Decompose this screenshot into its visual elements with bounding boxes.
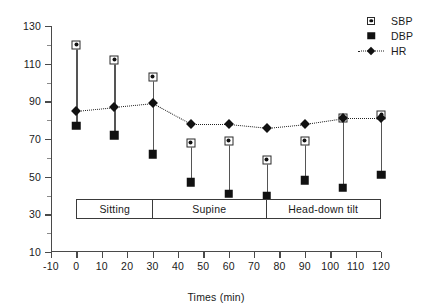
- x-tick-label: 110: [347, 260, 364, 272]
- x-tick-label: 40: [172, 260, 184, 272]
- square-with-dot-icon: [358, 15, 384, 27]
- x-tick: [330, 252, 331, 258]
- data-point-hr: [148, 98, 158, 108]
- x-tick-label: 30: [146, 260, 158, 272]
- y-tick-minor: [47, 83, 51, 84]
- data-point-hr: [110, 102, 120, 112]
- x-tick: [381, 252, 382, 258]
- x-tick: [229, 252, 230, 258]
- y-tick: [45, 177, 51, 178]
- data-point-dbp: [186, 178, 195, 187]
- bp-range-connector: [229, 141, 230, 194]
- y-tick-label: 10: [29, 246, 41, 258]
- data-point-dbp: [339, 184, 348, 193]
- y-tick-label: 30: [29, 208, 41, 220]
- data-point-hr: [262, 123, 272, 133]
- hr-line-segment: [152, 103, 191, 125]
- x-tick: [356, 252, 357, 258]
- data-point-dbp: [224, 189, 233, 198]
- data-point-sbp: [262, 155, 271, 164]
- bp-range-connector: [114, 60, 115, 135]
- legend-item-hr: HR: [358, 44, 413, 57]
- data-point-sbp: [148, 72, 157, 81]
- chart-legend: SBP DBP HR: [358, 14, 413, 59]
- y-tick: [45, 101, 51, 102]
- x-tick: [279, 252, 280, 258]
- data-point-dbp: [301, 176, 310, 185]
- data-point-sbp: [300, 136, 309, 145]
- bp-range-connector: [305, 141, 306, 181]
- y-tick-minor: [47, 158, 51, 159]
- x-tick: [76, 252, 77, 258]
- y-tick-minor: [47, 233, 51, 234]
- y-tick-label: 70: [29, 133, 41, 145]
- phase-label-supine: Supine: [153, 200, 266, 218]
- x-tick-label: 0: [73, 260, 79, 272]
- data-point-sbp: [110, 55, 119, 64]
- y-tick-label: 50: [29, 171, 41, 183]
- x-tick: [178, 252, 179, 258]
- legend-label-hr: HR: [391, 45, 407, 57]
- data-point-dbp: [377, 171, 386, 180]
- x-tick: [51, 252, 52, 258]
- x-tick-label: 100: [321, 260, 339, 272]
- phase-annotation-bar: SittingSupineHead-down tilt: [76, 199, 381, 219]
- data-point-sbp: [72, 40, 81, 49]
- data-point-dbp: [72, 122, 81, 131]
- bp-range-connector: [191, 143, 192, 183]
- y-tick: [45, 64, 51, 65]
- x-tick: [153, 252, 154, 258]
- plot-area: 1030507090110130 -1001020304050607080901…: [51, 26, 381, 252]
- x-tick-label: 80: [273, 260, 285, 272]
- legend-item-dbp: DBP: [358, 29, 413, 42]
- hr-line-segment: [267, 124, 305, 129]
- legend-item-sbp: SBP: [358, 14, 413, 27]
- x-tick-label: 50: [197, 260, 209, 272]
- y-tick-minor: [47, 196, 51, 197]
- filled-square-icon: [358, 30, 384, 42]
- x-tick-label: 90: [299, 260, 311, 272]
- hr-line-segment: [191, 124, 229, 125]
- y-axis-line: [51, 26, 52, 252]
- x-tick-label: 60: [223, 260, 235, 272]
- x-tick-label: 10: [96, 260, 108, 272]
- hr-line-segment: [343, 118, 381, 119]
- y-tick-minor: [47, 45, 51, 46]
- hr-line-segment: [114, 103, 152, 108]
- bp-range-connector: [343, 118, 344, 188]
- legend-label-sbp: SBP: [391, 15, 413, 27]
- y-tick-minor: [47, 120, 51, 121]
- y-tick: [45, 214, 51, 215]
- y-tick-label: 90: [29, 95, 41, 107]
- data-point-hr: [186, 119, 196, 129]
- y-tick-label: 110: [24, 58, 41, 70]
- x-tick: [305, 252, 306, 258]
- data-point-dbp: [110, 131, 119, 140]
- x-tick-label: 20: [121, 260, 133, 272]
- data-point-sbp: [224, 136, 233, 145]
- data-point-dbp: [148, 150, 157, 159]
- y-tick: [45, 139, 51, 140]
- y-tick: [45, 26, 51, 27]
- phase-label-sitting: Sitting: [77, 200, 153, 218]
- phase-label-head-down-tilt: Head-down tilt: [267, 200, 380, 218]
- x-tick: [102, 252, 103, 258]
- x-tick: [254, 252, 255, 258]
- y-tick-label: 130: [23, 20, 41, 32]
- bp-range-connector: [153, 77, 154, 154]
- bp-range-connector: [381, 115, 382, 175]
- data-point-hr: [71, 106, 81, 116]
- hr-line-segment: [305, 118, 343, 125]
- x-tick-label: 70: [248, 260, 260, 272]
- bp-range-connector: [267, 160, 268, 196]
- x-tick: [203, 252, 204, 258]
- data-point-sbp: [186, 138, 195, 147]
- data-point-hr: [300, 119, 310, 129]
- x-axis-title: Times (min): [51, 291, 381, 303]
- x-tick-label: -10: [43, 260, 59, 272]
- diamond-line-icon: [358, 45, 384, 57]
- data-point-hr: [224, 119, 234, 129]
- x-tick: [127, 252, 128, 258]
- legend-label-dbp: DBP: [391, 30, 413, 42]
